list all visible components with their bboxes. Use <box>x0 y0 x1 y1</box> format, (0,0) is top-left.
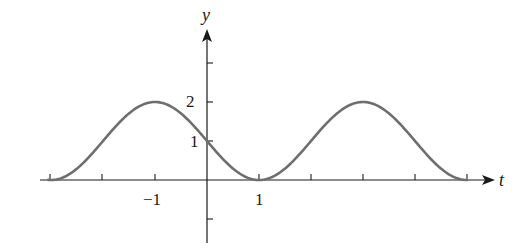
x-tick-label-1: 1 <box>255 190 264 209</box>
function-curve <box>48 102 467 180</box>
x-axis-label: t <box>499 170 505 190</box>
y-axis-label: y <box>200 5 210 25</box>
y-tick-label-1: 1 <box>190 132 199 151</box>
y-tick-label-2: 2 <box>186 92 195 111</box>
chart-figure: y t 2 1 −1 1 <box>0 0 529 250</box>
x-tick-label-neg1: −1 <box>143 190 161 209</box>
